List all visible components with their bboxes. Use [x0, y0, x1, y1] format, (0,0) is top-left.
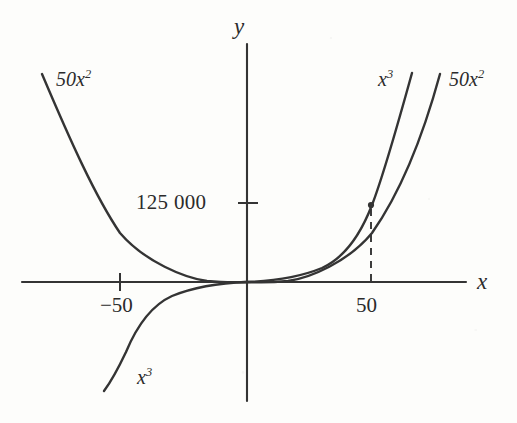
curve-label-right-exponent: 2	[478, 67, 484, 81]
graph-canvas	[0, 0, 517, 423]
curve-label-cubic-left-exponent: 3	[146, 365, 152, 379]
y-axis-label: y	[234, 15, 244, 38]
figure-container: y x 125 000 −50 50 50x2 x3 50x2 x3	[0, 0, 517, 423]
y-tick-label-125000: 125 000	[136, 192, 206, 213]
curve-label-x-cubed-right: x3	[378, 68, 393, 89]
curve-label-50x-squared-left: 50x2	[56, 68, 91, 89]
curve-x-cubed-right	[247, 73, 412, 282]
curve-label-x-cubed-left: x3	[137, 366, 152, 387]
curve-label-cubic-right-base: x	[378, 68, 387, 90]
curve-label-cubic-left-base: x	[137, 366, 146, 388]
curve-label-left-base: 50x	[56, 68, 85, 90]
curve-label-50x-squared-right: 50x2	[449, 68, 484, 89]
x-axis-label: x	[477, 270, 487, 293]
curve-label-cubic-right-exponent: 3	[387, 67, 393, 81]
intersection-point-marker	[368, 202, 374, 208]
x-tick-label-minus-50: −50	[100, 295, 133, 316]
curve-label-left-exponent: 2	[85, 67, 91, 81]
curve-label-right-base: 50x	[449, 68, 478, 90]
x-tick-label-50: 50	[356, 295, 377, 316]
